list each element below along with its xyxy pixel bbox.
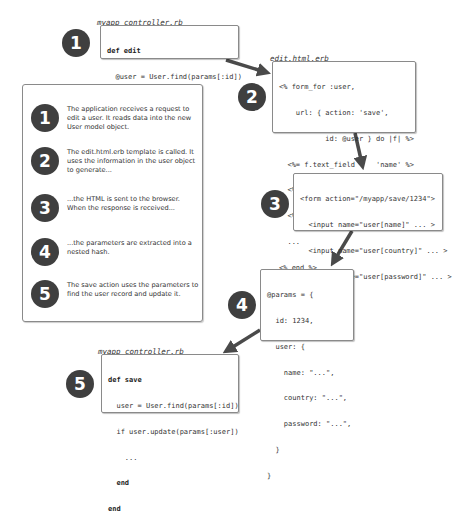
step-5-code: def save user = User.find(params[:id]) i… [101,354,239,413]
code-line: } [267,446,347,455]
code-line: end [108,505,232,514]
code-line: url: { action: 'save', [279,109,409,118]
legend-text-2: The edit.html.erb template is called. It… [67,148,199,175]
legend-badge-1: 1 [31,104,59,132]
code-line: <input name="user[country]" ... > [300,247,436,256]
code-line: id: @user } do |f| %> [279,135,409,144]
code-line: <form action="/myapp/save/1234"> [300,195,436,204]
code-line: user = User.find(params[:id]) [108,402,232,411]
legend-item-5: 5 The save action uses the parameters to… [31,277,201,311]
step-1-badge: 1 [62,29,90,57]
code-line: @user = User.find(params[:id]) [107,73,232,82]
code-line: country: "...", [267,394,347,403]
code-line: <% form_for :user, [279,83,409,92]
legend-item-3: 3 ...the HTML is sent to the browser. Wh… [31,191,201,225]
step-4-badge: 4 [228,291,256,319]
code-line: if user.update(params[:user]) [108,428,232,437]
step-3-code: <form action="/myapp/save/1234"> <input … [293,173,443,231]
legend-badge-4: 4 [31,238,59,266]
legend-text-5: The save action uses the parameters to f… [67,281,199,299]
step-1-code: def edit @user = User.find(params[:id]) … [100,25,239,59]
legend-text-4: ...the parameters are extracted into a n… [67,239,199,257]
step-2-code: <% form_for :user, url: { action: 'save'… [272,61,416,133]
code-line: name: "...", [267,369,347,378]
step-4-code: @params = { id: 1234, user: { name: "...… [260,269,354,341]
legend-badge-3: 3 [31,194,59,222]
code-line: id: 1234, [267,317,347,326]
legend-text-3: ...the HTML is sent to the browser. When… [67,195,199,213]
legend-badge-5: 5 [31,280,59,308]
code-line: } [267,472,347,481]
code-line: ... [108,454,232,463]
code-line: end [108,479,232,488]
code-line: <input name="user[name]" ... > [300,221,436,230]
code-line: def save [108,376,232,385]
step-5-badge: 5 [66,370,94,398]
code-line: def edit [107,47,232,56]
legend-item-4: 4 ...the parameters are extracted into a… [31,235,201,269]
legend-item-2: 2 The edit.html.erb template is called. … [31,144,201,178]
legend-text-1: The application receives a request to ed… [67,105,199,132]
code-line: <%= f.text_field 'name' %> [279,161,409,170]
legend-badge-2: 2 [31,147,59,175]
legend-panel: 1 The application receives a request to … [22,84,203,322]
step-2-badge: 2 [238,83,266,111]
code-line: user: { [267,343,347,352]
code-line: @params = { [267,291,347,300]
legend-item-1: 1 The application receives a request to … [31,101,201,135]
arrow-4-to-5 [228,330,260,350]
code-line: password: "...", [267,420,347,429]
step-3-badge: 3 [261,190,289,218]
